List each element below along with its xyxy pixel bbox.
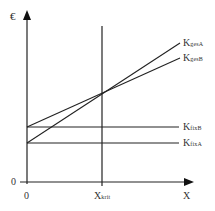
x-axis-label: X bbox=[183, 191, 190, 201]
y-axis-arrow-icon bbox=[23, 10, 31, 20]
chart-canvas bbox=[0, 0, 215, 211]
y-zero-label: 0 bbox=[11, 177, 16, 187]
x-axis-arrow-icon bbox=[184, 178, 194, 186]
x-zero-label: 0 bbox=[24, 191, 29, 201]
kfixB-label: KfixB bbox=[183, 122, 202, 132]
kgesB-label: KgesB bbox=[183, 53, 203, 63]
kgesA-label: KgesA bbox=[183, 38, 203, 48]
xkrit-label: Xkrit bbox=[94, 191, 110, 201]
y-axis-label: € bbox=[10, 11, 16, 22]
kfixA-label: KfixA bbox=[183, 138, 202, 148]
kgesB-line bbox=[27, 58, 180, 127]
